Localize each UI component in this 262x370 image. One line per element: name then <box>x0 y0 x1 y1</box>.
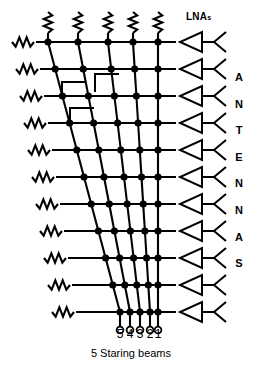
beam-top-termination-resistor <box>74 12 82 33</box>
antenna-element <box>214 248 226 268</box>
beam-port-number-row: 54321 <box>0 327 262 343</box>
junction-node <box>136 146 143 153</box>
row-termination-resistor <box>48 280 70 289</box>
junction-node <box>154 227 161 234</box>
junction-node <box>109 281 116 288</box>
lna-amplifier <box>180 275 202 295</box>
junction-node <box>59 92 66 99</box>
junction-node <box>95 146 102 153</box>
junction-node <box>90 119 97 126</box>
beam-top-termination-resistor <box>44 12 52 33</box>
junction-node <box>124 200 131 207</box>
antennas-label-letter-1: N <box>235 91 243 118</box>
antennas-vertical-label: ANTENNAS <box>228 64 250 277</box>
junction-node <box>154 254 161 261</box>
junction-node <box>143 254 150 261</box>
figure-caption: 5 Staring beams <box>0 347 262 359</box>
junction-node <box>136 308 143 315</box>
beam-top-termination-resistor <box>154 12 162 33</box>
row-termination-resistor <box>24 118 46 127</box>
junction-node <box>133 92 140 99</box>
junction-node <box>154 173 161 180</box>
antenna-element <box>214 302 226 322</box>
junction-node <box>154 65 161 72</box>
antenna-element <box>214 86 226 106</box>
lnas-label-text: LNA <box>186 11 207 22</box>
junction-node <box>138 173 145 180</box>
junction-node <box>154 119 161 126</box>
antenna-element <box>214 275 226 295</box>
junction-node <box>130 254 137 261</box>
lna-amplifier <box>180 140 202 160</box>
row-termination-resistor <box>36 199 58 208</box>
junction-node <box>140 200 147 207</box>
junction-node <box>131 65 138 72</box>
row-termination-resistor <box>32 172 54 181</box>
junction-node <box>111 92 118 99</box>
junction-node <box>154 308 161 315</box>
antenna-element <box>214 194 226 214</box>
junction-node <box>111 227 118 234</box>
junction-node <box>154 200 161 207</box>
junction-node <box>74 38 81 45</box>
junction-node <box>66 119 73 126</box>
junction-node <box>133 281 140 288</box>
junction-node <box>135 119 142 126</box>
beam-top-termination-resistor <box>129 12 137 33</box>
top-termination-resistors-group <box>44 12 162 33</box>
junction-node <box>100 173 107 180</box>
antenna-element <box>214 140 226 160</box>
junction-node <box>108 65 115 72</box>
junction-node <box>80 65 87 72</box>
antennas-label-letter-6: A <box>235 224 243 251</box>
junction-node <box>95 227 102 234</box>
antennas-label-letter-7: S <box>235 250 242 277</box>
beamforming-network-diagram <box>0 0 262 370</box>
junction-node <box>154 281 161 288</box>
junction-node <box>126 308 133 315</box>
junction-node <box>104 38 111 45</box>
junction-node <box>141 227 148 234</box>
junction-node <box>117 146 124 153</box>
row-termination-resistor <box>28 145 50 154</box>
antenna-element <box>214 167 226 187</box>
lna-amplifier <box>180 194 202 214</box>
antennas-label-letter-0: A <box>235 64 243 91</box>
row-termination-resistor <box>40 226 62 235</box>
lna-amplifier <box>180 86 202 106</box>
junction-node <box>44 38 51 45</box>
junction-node <box>85 92 92 99</box>
junction-node <box>154 92 161 99</box>
antenna-element <box>214 32 226 52</box>
junction-node <box>116 254 123 261</box>
antenna-element <box>214 221 226 241</box>
lna-amplifier <box>180 248 202 268</box>
crossover-mark <box>95 74 119 92</box>
lnas-label-subscript: s <box>207 14 211 21</box>
junction-node <box>106 200 113 207</box>
beam-top-termination-resistor <box>104 12 112 33</box>
lna-amplifier <box>180 32 202 52</box>
junction-node <box>114 119 121 126</box>
junction-node <box>102 254 109 261</box>
junction-node <box>145 281 152 288</box>
lnas-label: LNAs <box>186 11 211 22</box>
lna-amplifiers-group <box>180 32 202 322</box>
junction-node <box>121 281 128 288</box>
antenna-element <box>214 59 226 79</box>
row-termination-resistor <box>20 91 42 100</box>
row-termination-resistor <box>44 253 66 262</box>
lna-amplifier <box>180 59 202 79</box>
antennas-label-letter-5: N <box>235 197 243 224</box>
lna-amplifier <box>180 167 202 187</box>
row-termination-resistor <box>12 37 34 46</box>
junction-node <box>88 200 95 207</box>
crossover-marks-group <box>62 74 119 124</box>
junction-node <box>52 65 59 72</box>
antennas-label-letter-3: E <box>235 144 242 171</box>
lna-amplifier <box>180 113 202 133</box>
junction-node <box>80 173 87 180</box>
row-termination-resistor <box>52 307 74 316</box>
junction-node <box>154 146 161 153</box>
antenna-elements-group <box>202 32 226 322</box>
